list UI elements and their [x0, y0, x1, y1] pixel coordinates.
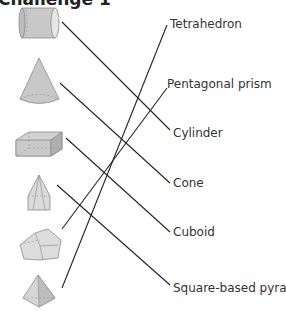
matching-diagram: [0, 0, 286, 311]
label-square-based-pyramid: Square-based pyramid: [173, 281, 286, 295]
connection-cuboid: [66, 138, 170, 232]
label-tetrahedron: Tetrahedron: [170, 17, 242, 31]
connection-cylinder: [62, 22, 170, 130]
cone-shape: [20, 58, 59, 104]
label-cuboid: Cuboid: [173, 225, 215, 239]
connection-square-based-pyramid: [57, 185, 170, 285]
label-cone: Cone: [173, 176, 204, 190]
connection-cone: [60, 83, 170, 183]
pentagonal-prism-shape: [20, 229, 61, 260]
tetrahedron-shape: [23, 275, 55, 307]
square-based-pyramid-shape: [28, 175, 50, 210]
cylinder-shape: [19, 8, 59, 38]
cuboid-shape: [16, 132, 62, 156]
label-pentagonal-prism: Pentagonal prism: [167, 77, 272, 91]
label-cylinder: Cylinder: [173, 126, 223, 140]
connection-pentagonal-prism: [62, 88, 167, 229]
connection-tetrahedron: [62, 25, 167, 288]
